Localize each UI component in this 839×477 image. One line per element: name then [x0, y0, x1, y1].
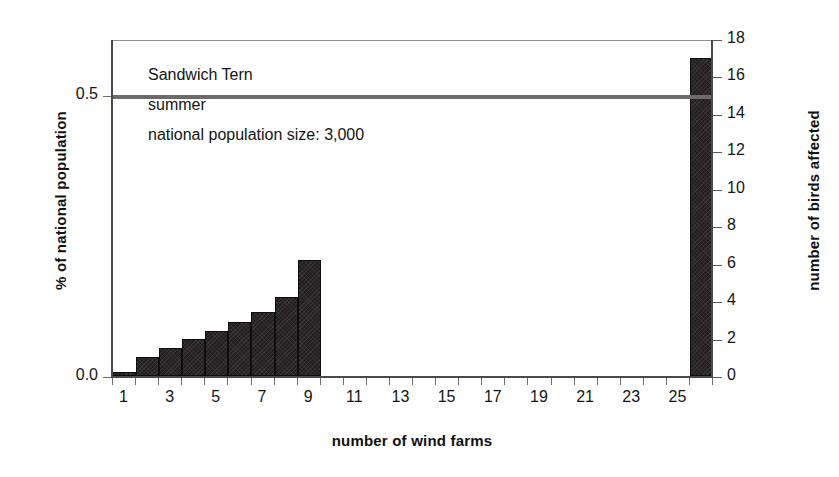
x-axis-tick-label: 25 — [657, 388, 697, 406]
x-axis-tick — [620, 378, 621, 385]
y-axis-right-tick-label: 6 — [727, 254, 736, 272]
x-axis-tick — [412, 378, 413, 385]
y-axis-right-tick-label: 2 — [727, 329, 736, 347]
y-axis-left-tick-label: 0.0 — [38, 366, 98, 384]
y-axis-right-tick-label: 0 — [727, 366, 736, 384]
y-axis-right-tick — [713, 40, 722, 41]
y-axis-right-tick — [713, 77, 722, 78]
y-axis-right-tick — [713, 340, 722, 341]
x-axis-tick — [504, 378, 505, 385]
x-axis-title: number of wind farms — [112, 432, 712, 449]
y-axis-right-tick-label: 10 — [727, 179, 745, 197]
x-axis-tick — [297, 378, 298, 385]
y-axis-left-tick — [103, 377, 111, 378]
x-axis-tick — [481, 378, 482, 385]
x-axis-tick — [574, 378, 575, 385]
x-axis-tick-label: 5 — [196, 388, 236, 406]
x-axis-tick — [712, 378, 713, 385]
x-axis-tick-label: 19 — [519, 388, 559, 406]
x-axis-tick-label: 7 — [242, 388, 282, 406]
x-axis-tick — [551, 378, 552, 385]
x-axis-tick — [135, 378, 136, 385]
x-axis-tick — [343, 378, 344, 385]
y-axis-right-tick-label: 16 — [727, 66, 745, 84]
y-axis-right-tick — [713, 152, 722, 153]
bar — [251, 312, 274, 376]
y-axis-right-tick-label: 8 — [727, 216, 736, 234]
bar — [205, 331, 228, 376]
plot-inner — [113, 41, 711, 376]
x-axis-tick — [227, 378, 228, 385]
x-axis-tick-label: 9 — [288, 388, 328, 406]
reference-line-0.5 — [113, 95, 711, 99]
bar — [690, 58, 711, 376]
bar — [275, 297, 298, 376]
y-axis-right-tick-label: 12 — [727, 141, 745, 159]
x-axis-tick-label: 11 — [334, 388, 374, 406]
x-axis-tick — [527, 378, 528, 385]
y-axis-right-tick — [713, 302, 722, 303]
x-axis-tick-label: 23 — [611, 388, 651, 406]
x-axis-tick — [435, 378, 436, 385]
y-axis-right-tick — [713, 377, 722, 378]
x-axis-tick — [204, 378, 205, 385]
y-axis-left-tick — [103, 96, 111, 97]
y-axis-left-spine — [111, 40, 113, 378]
y-axis-right-title: number of birds affected — [805, 76, 822, 326]
y-axis-right-tick — [713, 115, 722, 116]
x-axis-tick — [458, 378, 459, 385]
x-axis-tick-label: 3 — [150, 388, 190, 406]
x-axis-tick — [274, 378, 275, 385]
y-axis-right-tick-label: 14 — [727, 104, 745, 122]
x-axis-tick — [158, 378, 159, 385]
x-axis-tick — [251, 378, 252, 385]
x-axis-tick — [666, 378, 667, 385]
x-axis-tick-label: 15 — [427, 388, 467, 406]
x-axis-tick — [597, 378, 598, 385]
x-axis-tick — [366, 378, 367, 385]
y-axis-right-tick-label: 18 — [727, 29, 745, 47]
x-axis-tick-label: 1 — [104, 388, 144, 406]
chart-figure: % of national population number of birds… — [0, 0, 839, 477]
bar — [136, 357, 159, 376]
y-axis-right-tick — [713, 265, 722, 266]
bar — [159, 348, 182, 376]
x-axis-tick — [643, 378, 644, 385]
bar — [298, 260, 321, 376]
x-axis-tick — [389, 378, 390, 385]
y-axis-left-tick-label: 0.5 — [38, 85, 98, 103]
bar — [228, 322, 251, 376]
bar — [182, 339, 205, 376]
x-axis-tick — [689, 378, 690, 385]
x-axis-tick — [181, 378, 182, 385]
x-axis-tick — [320, 378, 321, 385]
x-axis-tick-label: 17 — [473, 388, 513, 406]
x-axis-tick — [112, 378, 113, 385]
x-axis-tick-label: 13 — [381, 388, 421, 406]
plot-area — [112, 40, 712, 377]
y-axis-right-tick — [713, 227, 722, 228]
y-axis-right-spine — [711, 40, 713, 378]
x-axis-tick-label: 21 — [565, 388, 605, 406]
y-axis-right-tick-label: 4 — [727, 291, 736, 309]
y-axis-right-tick — [713, 190, 722, 191]
y-axis-left-title: % of national population — [52, 71, 69, 331]
